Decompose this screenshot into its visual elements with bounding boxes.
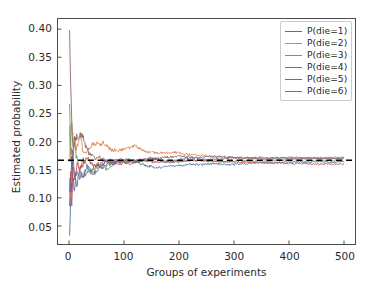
y-tick-label: 0.20 (28, 136, 52, 148)
y-tick-label: 0.40 (28, 22, 52, 34)
legend-color-swatch (285, 31, 302, 32)
y-tick-label: 0.25 (28, 107, 52, 119)
legend-color-swatch (285, 43, 302, 44)
x-tick-label: 200 (169, 250, 189, 262)
x-tick-label: 500 (335, 250, 355, 262)
x-tick-label: 100 (113, 250, 133, 262)
y-tick-label: 0.15 (28, 164, 52, 176)
x-tick-label: 0 (65, 250, 72, 262)
legend-color-swatch (285, 79, 302, 80)
y-tick-label: 0.35 (28, 51, 52, 63)
legend-item-label: P(die=3) (307, 50, 347, 59)
legend-color-swatch (285, 67, 302, 68)
x-axis-tick-labels: 0100200300400500 (0, 250, 378, 266)
legend-item-label: P(die=6) (307, 86, 347, 95)
legend-item-label: P(die=4) (307, 62, 347, 71)
y-tick-label: 0.05 (28, 221, 52, 233)
legend-item-label: P(die=5) (307, 74, 347, 83)
legend-item[interactable]: P(die=2) (285, 37, 347, 49)
legend-item[interactable]: P(die=1) (285, 25, 347, 37)
legend-color-swatch (285, 55, 302, 56)
legend-item[interactable]: P(die=4) (285, 61, 347, 73)
y-tick-label: 0.10 (28, 192, 52, 204)
legend-color-swatch (285, 91, 302, 92)
y-axis-tick-labels: 0.050.100.150.200.250.300.350.40 (0, 0, 52, 288)
figure: 0.050.100.150.200.250.300.350.40 Estimat… (0, 0, 378, 288)
legend[interactable]: P(die=1)P(die=2)P(die=3)P(die=4)P(die=5)… (280, 21, 352, 101)
legend-item[interactable]: P(die=5) (285, 73, 347, 85)
y-axis-label: Estimated probability (10, 57, 22, 217)
legend-item-label: P(die=1) (307, 26, 347, 35)
series-line (70, 159, 344, 236)
legend-item[interactable]: P(die=3) (285, 49, 347, 61)
legend-item[interactable]: P(die=6) (285, 85, 347, 97)
y-tick-label: 0.30 (28, 79, 52, 91)
x-tick-label: 300 (224, 250, 244, 262)
x-axis-label: Groups of experiments (57, 266, 356, 278)
x-tick-label: 400 (280, 250, 300, 262)
legend-item-label: P(die=2) (307, 38, 347, 47)
